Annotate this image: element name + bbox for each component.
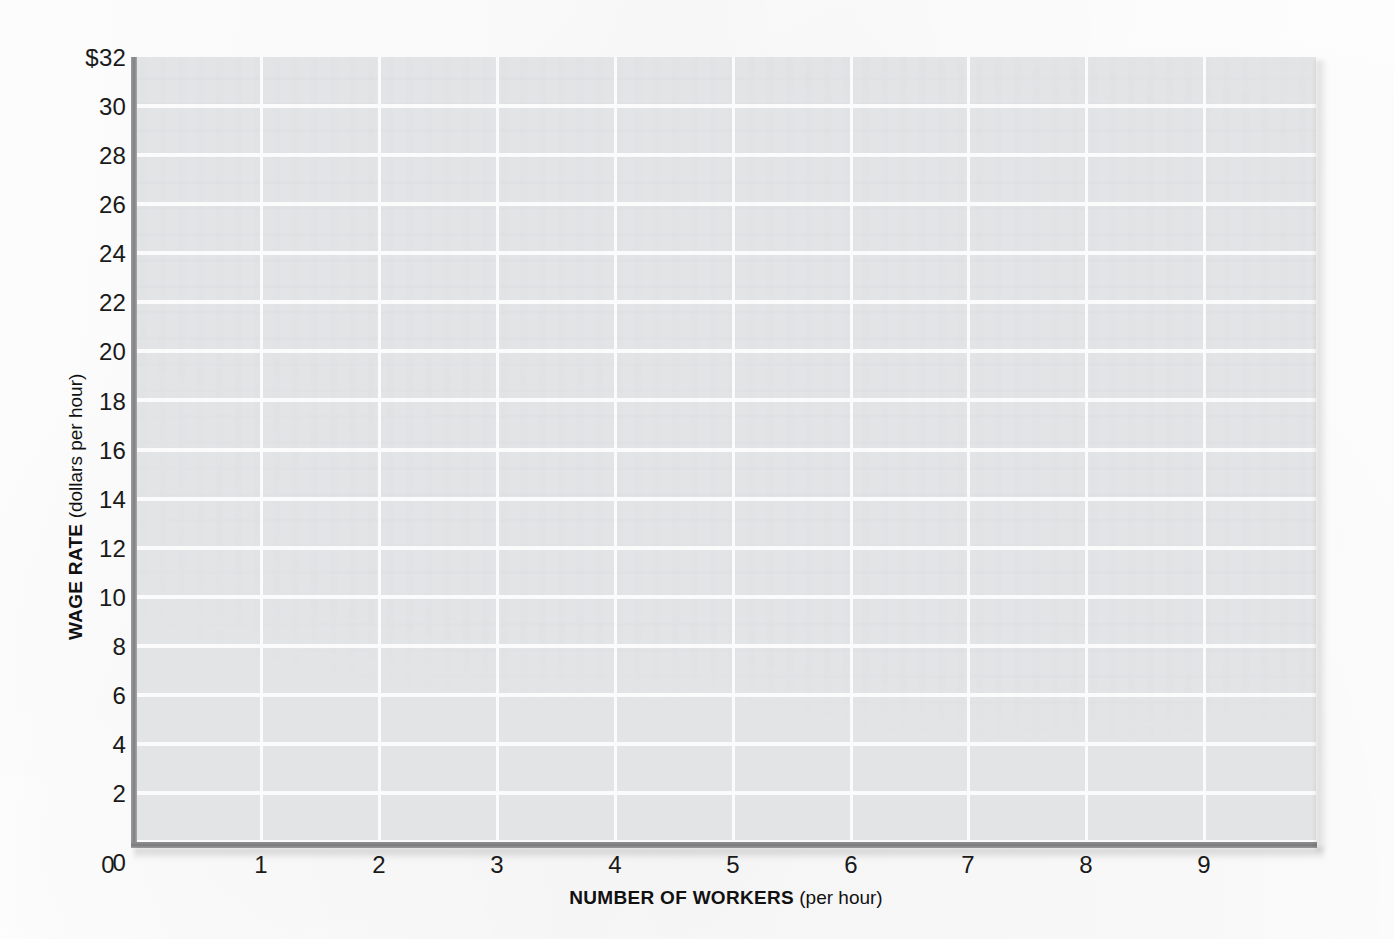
y-axis-title-sub: (dollars per hour) bbox=[65, 374, 86, 519]
gridline-horizontal bbox=[136, 349, 1316, 353]
y-axis-tick-label: 18 bbox=[99, 390, 126, 414]
gridline-horizontal bbox=[136, 595, 1316, 599]
gridline-horizontal bbox=[136, 742, 1316, 746]
gridline-horizontal bbox=[136, 202, 1316, 206]
gridline-horizontal bbox=[136, 300, 1316, 304]
gridline-vertical bbox=[732, 57, 735, 843]
x-axis-tick-label: 1 bbox=[241, 853, 281, 877]
gridline-horizontal bbox=[136, 497, 1316, 501]
gridline-horizontal bbox=[136, 791, 1316, 795]
gridline-vertical bbox=[260, 57, 263, 843]
x-axis-tick-label: 0 bbox=[88, 853, 128, 877]
x-axis-line bbox=[131, 842, 1317, 848]
gridline-horizontal bbox=[136, 644, 1316, 648]
gridline-horizontal bbox=[136, 693, 1316, 697]
gridline-horizontal bbox=[136, 251, 1316, 255]
x-axis-tick-label: 2 bbox=[359, 853, 399, 877]
gridline-horizontal bbox=[136, 153, 1316, 157]
y-axis-line bbox=[131, 57, 137, 848]
x-axis-title-main: NUMBER OF WORKERS bbox=[569, 887, 794, 908]
x-axis-tick-label: 6 bbox=[831, 853, 871, 877]
y-axis-tick-label: $32 bbox=[85, 46, 126, 70]
gridline-vertical bbox=[378, 57, 381, 843]
y-axis-tick-label: 4 bbox=[112, 733, 126, 757]
x-axis-tick-label: 5 bbox=[713, 853, 753, 877]
y-axis-tick-label: 6 bbox=[112, 684, 126, 708]
y-axis-tick-label: 2 bbox=[112, 782, 126, 806]
gridline-horizontal bbox=[136, 398, 1316, 402]
y-axis-title-main: WAGE RATE bbox=[65, 524, 86, 640]
y-axis-tick-label: 22 bbox=[99, 291, 126, 315]
y-axis-tick-label: 20 bbox=[99, 340, 126, 364]
y-axis-tick-label: 24 bbox=[99, 242, 126, 266]
x-axis-tick-label: 4 bbox=[595, 853, 635, 877]
x-axis-title-sub: (per hour) bbox=[799, 887, 882, 908]
gridline-horizontal bbox=[136, 546, 1316, 550]
gridline-vertical bbox=[496, 57, 499, 843]
axis-drop-shadow-right bbox=[1316, 60, 1328, 850]
y-axis-tick-label: 16 bbox=[99, 439, 126, 463]
x-axis-tick-label: 3 bbox=[477, 853, 517, 877]
scanned-page: $32 30 28 26 24 22 20 18 16 14 12 10 8 6… bbox=[0, 0, 1394, 939]
gridline-vertical bbox=[614, 57, 617, 843]
wage-rate-graph: $32 30 28 26 24 22 20 18 16 14 12 10 8 6… bbox=[0, 0, 1394, 939]
y-axis-tick-label: 8 bbox=[112, 635, 126, 659]
x-axis-title: NUMBER OF WORKERS (per hour) bbox=[136, 888, 1316, 907]
plot-area[interactable] bbox=[136, 57, 1316, 843]
y-axis-tick-label: 28 bbox=[99, 144, 126, 168]
gridline-vertical bbox=[850, 57, 853, 843]
gridline-vertical bbox=[967, 57, 970, 843]
y-axis-title: WAGE RATE (dollars per hour) bbox=[66, 374, 85, 640]
y-axis-tick-label: 10 bbox=[99, 586, 126, 610]
gridline-horizontal bbox=[136, 448, 1316, 452]
x-axis-tick-label: 8 bbox=[1066, 853, 1106, 877]
gridline-vertical bbox=[1203, 57, 1206, 843]
gridline-vertical bbox=[1085, 57, 1088, 843]
y-axis-tick-label: 30 bbox=[99, 95, 126, 119]
x-axis-tick-label: 9 bbox=[1184, 853, 1224, 877]
y-axis-tick-label: 12 bbox=[99, 537, 126, 561]
gridline-horizontal bbox=[136, 104, 1316, 108]
y-axis-tick-label: 14 bbox=[99, 488, 126, 512]
y-axis-tick-label: 26 bbox=[99, 193, 126, 217]
x-axis-tick-label: 7 bbox=[948, 853, 988, 877]
